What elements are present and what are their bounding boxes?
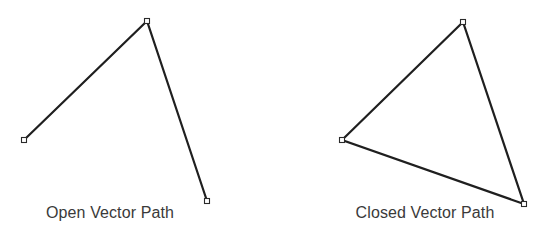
closed-path-anchor-point-icon <box>340 138 345 143</box>
open-path-label: Open Vector Path <box>46 204 174 222</box>
closed-path-anchor-point-icon <box>522 202 527 207</box>
open-path-segments <box>24 21 207 201</box>
closed-vector-path <box>340 20 527 207</box>
open-path-anchor-point-icon <box>145 19 150 24</box>
open-path-anchor-point-icon <box>22 138 27 143</box>
closed-path-label: Closed Vector Path <box>356 204 495 222</box>
closed-path-segments <box>342 22 524 204</box>
vector-path-diagram <box>0 0 543 237</box>
open-path-anchor-points <box>22 19 210 204</box>
open-path-anchor-point-icon <box>205 199 210 204</box>
closed-path-anchor-points <box>340 20 527 207</box>
open-vector-path <box>22 19 210 204</box>
closed-path-anchor-point-icon <box>461 20 466 25</box>
